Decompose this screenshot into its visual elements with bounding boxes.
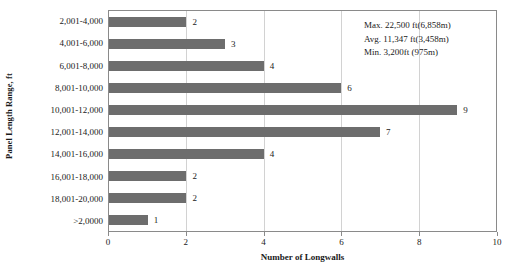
bar [109,215,148,225]
x-axis-line [108,231,497,232]
x-axis-title: Number of Longwalls [108,252,497,262]
bar-row: 6 [109,77,496,99]
bar [109,83,341,93]
bar-row: 9 [109,99,496,121]
x-axis-tick-label: 4 [261,237,266,247]
bar [109,105,457,115]
y-axis-tick-label: 2,001-4,000 [18,10,107,32]
y-axis-tick-label: 8,001-10,000 [18,77,107,99]
x-axis-tick [264,232,265,236]
y-axis-tick-label: 14,001-16,000 [18,143,107,165]
x-axis-tick [108,232,109,236]
y-axis-tick-label: 10,001-12,000 [18,99,107,121]
y-axis-tick-label: >2,0000 [18,210,107,232]
y-axis-tick-label: 4,001-6,000 [18,32,107,54]
bar-row: 7 [109,121,496,143]
bar-row: 2 [109,165,496,187]
plot-area: 2346974221 Max. 22,500 ft(6,858m)Avg. 11… [108,10,497,232]
bar-value-label: 9 [463,105,468,115]
bar-value-label: 1 [154,215,159,225]
y-axis-tick-label: 18,001-20,000 [18,188,107,210]
x-axis-tick [419,232,420,236]
bar [109,17,186,27]
bar-row: 4 [109,143,496,165]
bar-row: 2 [109,187,496,209]
y-axis-title-label: Panel Length Range, ft [4,73,14,159]
bar-value-label: 4 [270,61,275,71]
annotation-line: Avg. 11,347 ft(3,458m) [364,33,451,47]
statistics-annotation: Max. 22,500 ft(6,858m)Avg. 11,347 ft(3,4… [364,19,451,60]
y-axis-tick-label: 12,001-14,000 [18,121,107,143]
bar-value-label: 6 [347,83,352,93]
x-axis-tick-label: 10 [493,237,502,247]
bar [109,193,186,203]
x-axis-tick-label: 8 [417,237,422,247]
annotation-line: Max. 22,500 ft(6,858m) [364,19,451,33]
y-axis-tick-labels: 2,001-4,0004,001-6,0006,001-8,0008,001-1… [18,10,107,232]
bar-value-label: 3 [231,39,236,49]
bar [109,149,264,159]
x-axis-tick-label: 2 [184,237,189,247]
y-axis-tick-label: 6,001-8,000 [18,54,107,76]
x-axis-tick-label: 6 [339,237,344,247]
bar-value-label: 7 [386,127,391,137]
plot-inner: 2346974221 Max. 22,500 ft(6,858m)Avg. 11… [109,11,496,231]
bar [109,61,264,71]
bar [109,127,380,137]
x-axis-tick [186,232,187,236]
x-axis-tick [341,232,342,236]
bar [109,171,186,181]
bar-row: 1 [109,209,496,231]
x-axis-tick-label: 0 [106,237,111,247]
bar-value-label: 4 [270,149,275,159]
x-axis-tick [497,232,498,236]
bar [109,39,225,49]
bar-value-label: 2 [192,17,197,27]
y-axis-tick-label: 16,001-18,000 [18,165,107,187]
bar-chart: Panel Length Range, ft 2,001-4,0004,001-… [0,0,525,280]
bar-value-label: 2 [192,171,197,181]
annotation-line: Min. 3,200ft (975m) [364,46,451,60]
bar-value-label: 2 [192,193,197,203]
y-axis-title: Panel Length Range, ft [0,0,18,232]
